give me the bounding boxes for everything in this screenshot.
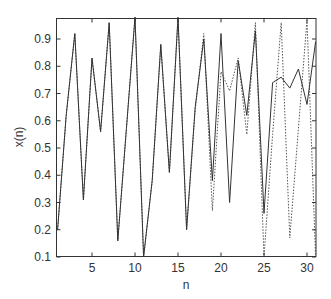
y-tick-label: 0.1 <box>34 250 51 264</box>
series-solid-line <box>58 17 316 257</box>
y-tick-label: 0.6 <box>34 114 51 128</box>
y-tick-label: 0.4 <box>34 168 51 182</box>
x-tick-label: 30 <box>300 261 314 275</box>
y-axis-label: x(n) <box>12 127 26 148</box>
x-tick-label: 5 <box>89 261 96 275</box>
y-tick-label: 0.9 <box>34 32 51 46</box>
x-tick-label: 10 <box>128 261 142 275</box>
y-tick-label: 0.8 <box>34 59 51 73</box>
plot-lines <box>58 17 316 257</box>
line-chart: 0.10.20.30.40.50.60.70.80.9 51015202530 … <box>0 0 331 299</box>
y-tick-label: 0.3 <box>34 196 51 210</box>
x-tick-label: 25 <box>257 261 271 275</box>
y-tick-label: 0.2 <box>34 223 51 237</box>
x-axis-label: n <box>183 278 190 292</box>
y-tick-label: 0.5 <box>34 141 51 155</box>
x-tick-label: 20 <box>214 261 228 275</box>
y-tick-label: 0.7 <box>34 87 51 101</box>
x-tick-label: 15 <box>171 261 185 275</box>
